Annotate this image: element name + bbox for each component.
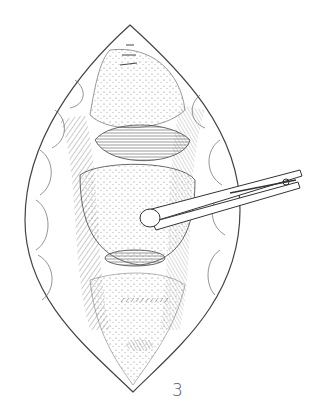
lower-lens xyxy=(105,250,165,266)
surgical-illustration xyxy=(0,0,319,418)
figure-number: 3 xyxy=(172,380,183,400)
upper-tissue xyxy=(90,49,185,127)
